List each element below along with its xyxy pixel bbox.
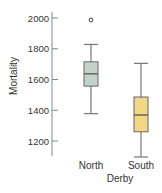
x-axis-label: Derby — [107, 173, 134, 184]
y-tick-label: 1600 — [28, 74, 49, 85]
box-north — [84, 18, 98, 113]
y-tick-label: 1400 — [28, 105, 49, 116]
y-axis-label: Mortality — [8, 57, 19, 95]
y-tick-label: 1800 — [28, 43, 49, 54]
y-tick-label: 2000 — [28, 13, 49, 24]
y-axis-ticks: 12001400160018002000 — [28, 13, 58, 147]
x-tick-north: North — [79, 160, 103, 171]
y-tick-label: 1200 — [28, 136, 49, 147]
box-group — [84, 18, 148, 157]
boxplot-chart: 12001400160018002000 Mortality North Sou… — [0, 0, 162, 193]
x-tick-south: South — [128, 160, 154, 171]
outlier-point — [89, 18, 93, 22]
box-south — [134, 63, 148, 157]
